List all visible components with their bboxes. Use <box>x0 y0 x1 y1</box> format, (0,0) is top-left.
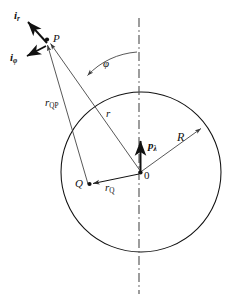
vector-r-line <box>51 44 142 173</box>
vector-rqp-line <box>48 45 89 184</box>
point-P-label: P <box>53 33 60 44</box>
unit-vector-ir-line <box>28 22 47 43</box>
unit-vector-ir-label: ir <box>14 10 20 24</box>
angle-phi-arc <box>88 52 138 76</box>
origin-label: 0 <box>144 170 150 181</box>
vector-r-label: r <box>106 108 110 119</box>
vector-rqp-label: rQP <box>45 97 59 110</box>
angle-phi-label: φ <box>103 58 109 69</box>
vector-rq-line <box>93 174 139 184</box>
origin-marker <box>138 170 142 174</box>
geometry-diagram <box>0 0 233 302</box>
point-Q-label: Q <box>75 178 83 189</box>
vector-rq-label: rQ <box>105 182 115 195</box>
point-P-marker <box>45 37 49 41</box>
radius-R-label: R <box>177 131 184 143</box>
dipole-label: pλ <box>148 140 157 154</box>
unit-vector-iphi-label: iφ <box>10 52 17 66</box>
point-Q-marker <box>87 182 91 186</box>
unit-vector-iphi-line <box>27 46 46 56</box>
